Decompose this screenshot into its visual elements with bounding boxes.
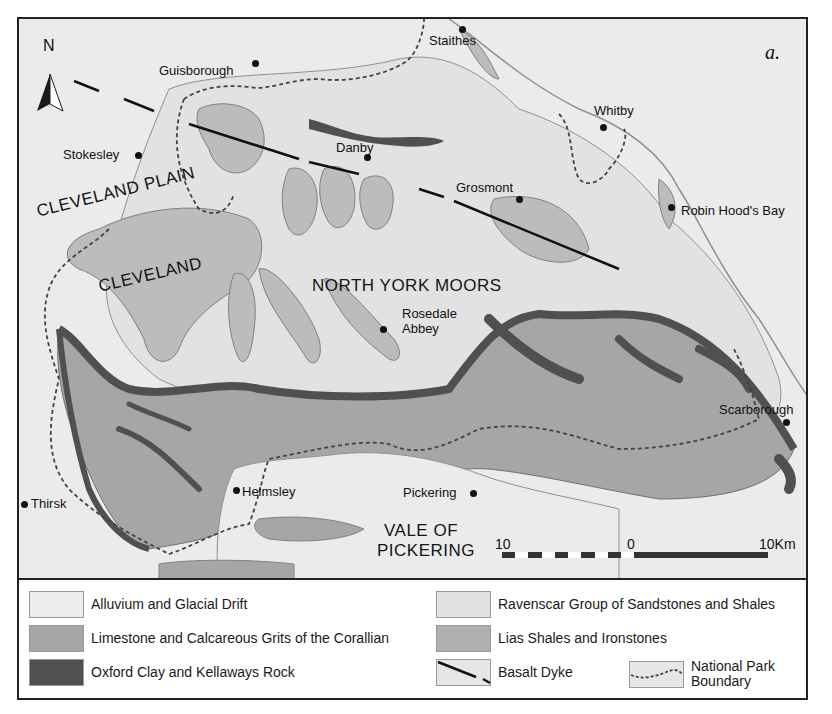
place-rosedale: Rosedale [402,307,457,321]
place-dot-whitby [600,124,607,131]
legend-label: Limestone and Calcareous Grits of the Co… [91,631,389,646]
swatch-ravenscar [436,591,491,618]
legend-label: Ravenscar Group of Sandstones and Shales [498,597,775,612]
legend-item-oxford-clay: Oxford Clay and Kellaways Rock [29,658,295,686]
place-danby: Danby [336,141,374,155]
place-dot-helmsley [233,487,240,494]
region-label-north-york-moors: NORTH YORK MOORS [312,276,502,296]
swatch-national-park-boundary [629,661,684,688]
legend-label: Alluvium and Glacial Drift [91,597,247,612]
place-helmsley: Helmsley [242,485,295,499]
place-scarborough: Scarborough [719,403,793,417]
place-dot-robin-hoods-bay [668,204,675,211]
panel-label: a. [765,41,780,64]
legend-label-group: National Park Boundary [691,659,775,689]
scale-label-zero: 0 [627,536,635,552]
place-dot-staithes [459,26,466,33]
place-dot-stokesley [135,152,142,159]
swatch-limestone [29,625,84,652]
scale-label-right: 10Km [759,536,796,552]
scale-label-left: 10 [495,536,511,552]
legend-label: Oxford Clay and Kellaways Rock [91,665,295,680]
legend-label: Basalt Dyke [498,665,573,680]
swatch-basalt-dyke [436,659,491,686]
place-dot-rosedale-abbey [380,326,387,333]
legend-item-national-park-boundary: National Park Boundary [629,658,775,690]
swatch-lias [436,625,491,652]
north-label: N [43,37,55,55]
geological-map-figure: N a. CLEVELAND PLAIN CLEVELAND NORTH YOR… [17,17,808,700]
place-pickering: Pickering [403,486,456,500]
legend-item-lias: Lias Shales and Ironstones [436,624,667,652]
swatch-alluvium [29,591,84,618]
place-staithes: Staithes [429,34,476,48]
legend-label-line2: Boundary [691,674,775,689]
legend-item-limestone: Limestone and Calcareous Grits of the Co… [29,624,389,652]
legend-label-line1: National Park [691,659,775,674]
place-whitby: Whitby [594,104,634,118]
map-panel: N a. CLEVELAND PLAIN CLEVELAND NORTH YOR… [17,17,808,580]
legend-item-alluvium: Alluvium and Glacial Drift [29,590,247,618]
place-stokesley: Stokesley [63,148,119,162]
legend-label: Lias Shales and Ironstones [498,631,667,646]
place-dot-grosmont [516,196,523,203]
place-abbey: Abbey [402,322,439,336]
swatch-oxford-clay [29,659,84,686]
dashed-boundary-icon [629,661,684,688]
place-thirsk: Thirsk [31,497,66,511]
place-dot-guisborough [252,60,259,67]
legend-item-basalt-dyke: Basalt Dyke [436,658,573,686]
place-dot-danby [364,154,371,161]
place-grosmont: Grosmont [456,181,513,195]
legend-item-ravenscar: Ravenscar Group of Sandstones and Shales [436,590,775,618]
place-dot-scarborough [783,419,790,426]
basalt-dyke-icon [436,659,491,686]
place-dot-pickering [470,490,477,497]
place-robin-hoods-bay: Robin Hood's Bay [681,204,785,218]
region-label-vale-of: VALE OF [384,521,458,541]
place-dot-thirsk [21,501,28,508]
place-guisborough: Guisborough [159,64,233,78]
region-label-pickering: PICKERING [377,541,475,561]
map-legend: Alluvium and Glacial Drift Limestone and… [17,580,808,700]
